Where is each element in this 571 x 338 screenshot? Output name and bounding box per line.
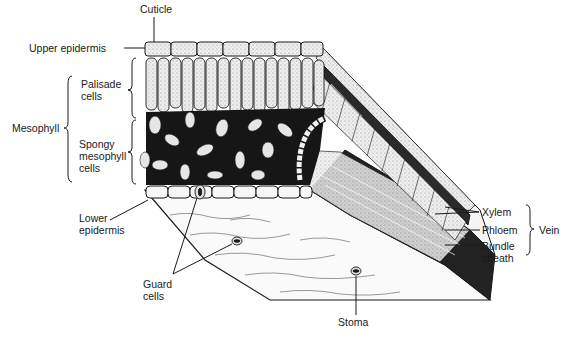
label-bundle-line1: Bundle	[482, 240, 515, 252]
upper-epidermis-cells	[145, 42, 323, 56]
label-palisade-line2: cells	[81, 90, 121, 102]
label-guard-line1: Guard	[143, 278, 172, 290]
label-palisade-cells: Palisade cells	[81, 78, 121, 102]
leaf-diagram: Cuticle Upper epidermis Palisade cells M…	[0, 0, 571, 338]
label-spongy-line1: Spongy	[79, 138, 126, 150]
label-stoma: Stoma	[338, 316, 368, 328]
label-spongy-line2: mesophyll	[79, 150, 126, 162]
lower-epidermis-cells	[146, 186, 312, 198]
label-cuticle: Cuticle	[140, 3, 172, 15]
label-palisade-line1: Palisade	[81, 78, 121, 90]
label-bundle-line2: sheath	[482, 252, 515, 264]
label-upper-epidermis: Upper epidermis	[29, 42, 106, 54]
label-mesophyll: Mesophyll	[12, 122, 59, 134]
label-phloem: Phloem	[482, 224, 518, 236]
label-guard-cells: Guard cells	[143, 278, 172, 302]
label-bundle-sheath: Bundle sheath	[482, 240, 515, 264]
palisade-cells	[146, 58, 324, 114]
spongy-mesophyll	[140, 108, 325, 185]
label-vein: Vein	[539, 224, 559, 236]
label-lower-line1: Lower	[79, 212, 125, 224]
label-spongy-line3: cells	[79, 162, 126, 174]
label-spongy-mesophyll-cells: Spongy mesophyll cells	[79, 138, 126, 174]
label-xylem: Xylem	[482, 206, 511, 218]
label-lower-line2: epidermis	[79, 224, 125, 236]
label-lower-epidermis: Lower epidermis	[79, 212, 125, 236]
label-guard-line2: cells	[143, 290, 172, 302]
